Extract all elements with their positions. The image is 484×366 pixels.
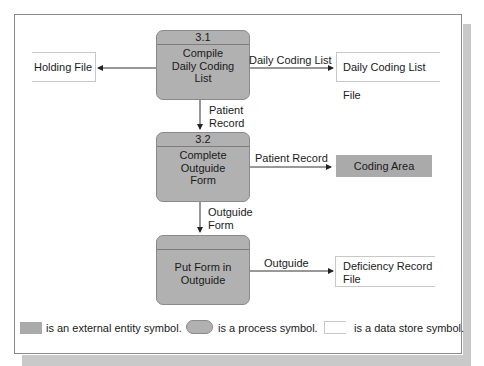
data-store-deficiency-record-file[interactable]: Deficiency Record File (335, 256, 435, 287)
legend-entity-text: is an external entity symbol. (46, 322, 182, 334)
process-label: Complete Outguide Form (157, 149, 249, 187)
process-id: 3.2 (157, 133, 249, 147)
process-label: Compile Daily Coding List (157, 47, 249, 85)
legend-store-swatch (324, 321, 346, 334)
legend-process-swatch (186, 320, 213, 334)
flow-label-outguide-form: Outguide Form (208, 206, 253, 231)
data-store-holding-file[interactable]: Holding File (32, 52, 96, 82)
legend-store-text: is a data store symbol. (354, 322, 464, 334)
flow-label-outguide: Outguide (264, 257, 309, 270)
flow-label-patient-record-down: Patient Record (209, 104, 244, 129)
process-id (157, 236, 249, 250)
legend-process-text: is a process symbol. (218, 322, 318, 334)
process-complete-outguide-form[interactable]: 3.2 Complete Outguide Form (156, 132, 250, 202)
external-entity-coding-area[interactable]: Coding Area (336, 155, 432, 177)
flow-label-patient-record-right: Patient Record (255, 152, 328, 165)
process-put-form-in-outguide[interactable]: Put Form in Outguide (156, 235, 250, 305)
data-store-daily-coding-list-file[interactable]: Daily Coding List File (336, 52, 440, 82)
flow-label-daily-coding-list: Daily Coding List (249, 54, 332, 67)
legend-entity-swatch (20, 322, 42, 334)
process-id: 3.1 (157, 31, 249, 45)
process-label: Put Form in Outguide (157, 261, 249, 286)
process-compile-daily-coding-list[interactable]: 3.1 Compile Daily Coding List (156, 30, 250, 100)
